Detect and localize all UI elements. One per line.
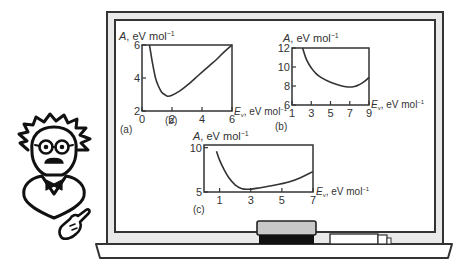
panel-label-c: (c) — [193, 204, 205, 215]
mustache — [45, 159, 63, 164]
x-tick-label: 1 — [217, 194, 223, 206]
y-tick-label: 10 — [278, 61, 290, 73]
bow-tie — [46, 180, 62, 190]
chalk[interactable] — [330, 234, 391, 244]
y-tick-label: 4 — [134, 72, 140, 84]
x-tick-label: 3 — [248, 194, 254, 206]
x-tick-label: 1 — [289, 107, 295, 119]
y-tick-label: 5 — [196, 186, 202, 198]
professor-character — [19, 114, 90, 239]
body — [24, 176, 85, 218]
svg-text:A, eV mol−1: A, eV mol−1 — [192, 130, 249, 142]
y-tick-label: 10 — [190, 142, 202, 154]
head — [32, 127, 77, 175]
x-tick-label: 7 — [347, 107, 353, 119]
x-tick-label: 5 — [327, 107, 333, 119]
scene: A, eV mol−1 246 0246 Ev, eV mol−1 (a) (b… — [0, 0, 458, 271]
svg-text:A, eV mol−1: A, eV mol−1 — [282, 32, 339, 44]
inline-label-b: (b) — [165, 115, 177, 126]
eraser[interactable] — [257, 221, 316, 244]
x-tick-label: 5 — [279, 194, 285, 206]
svg-text:A, eV mol−1: A, eV mol−1 — [118, 30, 175, 42]
panel-label-a: (a) — [120, 124, 132, 135]
y-tick-label: 6 — [134, 39, 140, 51]
y-tick-label: 12 — [278, 42, 290, 54]
x-tick-label: 3 — [308, 107, 314, 119]
board-ledge — [96, 244, 452, 258]
x-tick-label: 0 — [139, 113, 145, 125]
x-tick-label: 4 — [199, 113, 205, 125]
y-tick-label: 8 — [284, 80, 290, 92]
panel-label-b: (b) — [275, 121, 287, 132]
